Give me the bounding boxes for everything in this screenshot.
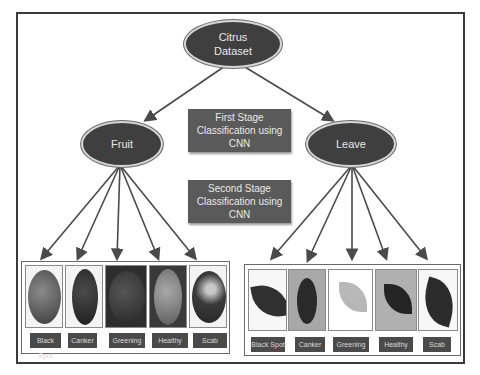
second-stage-line1: Second Stage (188, 182, 291, 195)
first-stage-line2: Classification using (188, 124, 291, 137)
leave-image-healthy (375, 269, 417, 331)
leave-class-label-scab: Scab (423, 337, 451, 352)
fruit-class-label-greening: Greening (109, 333, 145, 348)
second-stage-box: Second Stage Classification using CNN (188, 180, 291, 223)
fruit-class-label-scab: Scab (193, 333, 227, 348)
fruit-class-label-canker: Canker (68, 333, 97, 348)
fruit-label: Fruit (111, 137, 133, 151)
fruit-class-label-black-spot: Black Spot (30, 333, 61, 348)
root-node-citrus-dataset: Citrus Dataset (184, 20, 282, 68)
leave-image-greening (328, 269, 373, 331)
fruit-image-scab (189, 265, 227, 328)
root-label-line2: Dataset (214, 44, 252, 58)
fruit-image-canker (65, 265, 103, 328)
leave-class-label-canker: Canker (295, 337, 325, 352)
second-stage-line2: Classification using (188, 195, 291, 208)
fruit-image-healthy (149, 265, 187, 328)
first-stage-line3: CNN (188, 137, 291, 150)
first-stage-line1: First Stage (188, 111, 291, 124)
fruit-image-black-spot (25, 265, 63, 328)
leave-class-label-greening: Greening (333, 337, 369, 352)
root-label-line1: Citrus (219, 30, 248, 44)
leave-image-scab (418, 269, 458, 331)
leave-image-canker (288, 269, 326, 331)
fruit-image-greening (105, 265, 147, 328)
leave-class-label-healthy: Healthy (379, 337, 413, 352)
leave-class-label-black-spot: Black Spot (251, 337, 285, 352)
fruit-classes-panel: Black Spot Canker Greening Healthy Scab (21, 261, 230, 354)
leave-classes-panel: Black Spot Canker Greening Healthy Scab (244, 264, 461, 356)
leave-label: Leave (336, 137, 366, 151)
leave-image-black-spot (248, 269, 287, 331)
fruit-node: Fruit (81, 121, 163, 167)
leave-node: Leave (306, 121, 396, 167)
second-stage-line3: CNN (188, 208, 291, 221)
fruit-class-label-healthy: Healthy (152, 333, 188, 348)
first-stage-box: First Stage Classification using CNN (188, 109, 291, 152)
